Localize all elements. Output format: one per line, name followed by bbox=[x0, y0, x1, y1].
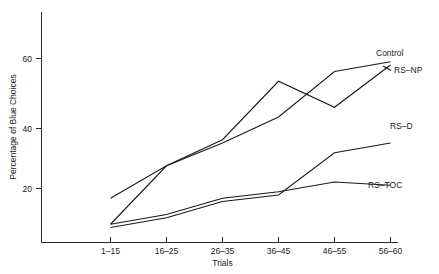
series-label-rs-d: RS–D bbox=[390, 121, 413, 131]
x-tick-label-4: 46–55 bbox=[323, 246, 347, 256]
y-tick-label-40: 40 bbox=[23, 124, 33, 134]
series-line-rs-np bbox=[111, 62, 391, 199]
y-axis-title: Percentage of Blue Choices bbox=[8, 74, 18, 179]
chart-canvas: 60 40 20 1–15 16–25 26–35 36–45 46–55 56… bbox=[0, 0, 439, 274]
y-tick-label-60: 60 bbox=[23, 54, 33, 64]
x-tick-label-5: 56–60 bbox=[379, 246, 403, 256]
series-line-rs-toc bbox=[111, 182, 391, 224]
series-label-rs-toc: RS–TOC bbox=[368, 180, 402, 190]
series-line-control bbox=[111, 65, 391, 224]
series-label-rs-np: RS–NP bbox=[394, 65, 423, 75]
x-tick-label-3: 36–45 bbox=[267, 246, 291, 256]
x-axis-title: Trials bbox=[212, 258, 232, 268]
series-line-rs-d bbox=[111, 143, 391, 228]
line-chart: 60 40 20 1–15 16–25 26–35 36–45 46–55 56… bbox=[0, 0, 439, 274]
x-tick-label-2: 26–35 bbox=[211, 246, 235, 256]
y-tick-label-20: 20 bbox=[23, 184, 33, 194]
series-label-control: Control bbox=[376, 48, 404, 58]
x-tick-label-1: 16–25 bbox=[155, 246, 179, 256]
x-tick-label-0: 1–15 bbox=[101, 246, 120, 256]
